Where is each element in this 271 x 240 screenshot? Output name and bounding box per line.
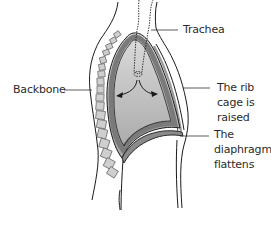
label-diaphragm-line-1: The [214,127,271,142]
label-diaphragm: The diaphragm flattens [214,127,271,172]
label-backbone: Backbone [13,83,66,96]
label-rib-cage-line-1: The rib [217,80,254,95]
label-rib-cage-line-3: raised [217,110,254,125]
body-back-inner-outline [119,190,120,210]
label-trachea: Trachea [183,23,225,36]
label-rib-cage: The rib cage is raised [217,80,254,125]
label-diaphragm-line-2: diaphragm [214,142,271,157]
label-backbone-text: Backbone [13,83,66,96]
label-rib-cage-line-2: cage is [217,95,254,110]
label-trachea-text: Trachea [183,23,225,36]
abdomen-outline [176,140,178,208]
label-diaphragm-line-3: flattens [214,157,271,172]
abdomen-inner-outline [121,160,123,210]
